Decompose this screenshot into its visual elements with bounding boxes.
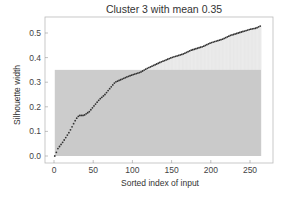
- data-point: [88, 111, 90, 113]
- data-point: [175, 55, 177, 57]
- chart-title: Cluster 3 with mean 0.35: [106, 3, 222, 15]
- data-point: [115, 81, 117, 83]
- data-point: [98, 99, 100, 101]
- data-point: [68, 132, 70, 134]
- data-point: [208, 43, 210, 45]
- x-tick-label: 200: [204, 165, 218, 175]
- data-point: [113, 82, 115, 84]
- data-point: [66, 134, 68, 136]
- data-point: [74, 120, 76, 122]
- data-point: [123, 77, 125, 79]
- data-point: [137, 72, 139, 74]
- data-point: [178, 54, 180, 56]
- y-tick-label: 0.1: [29, 126, 41, 136]
- data-point: [150, 66, 152, 68]
- data-point: [117, 80, 119, 82]
- data-point: [154, 64, 156, 66]
- data-point: [92, 107, 94, 109]
- data-point: [146, 67, 148, 69]
- data-point: [82, 115, 84, 117]
- data-point: [157, 62, 159, 64]
- x-tick-label: 250: [243, 165, 257, 175]
- data-point: [204, 45, 206, 47]
- x-axis-label: Sorted index of input: [121, 178, 200, 188]
- data-point: [251, 28, 253, 30]
- data-point: [140, 71, 142, 73]
- data-point: [240, 31, 242, 33]
- data-point: [244, 30, 246, 32]
- data-point: [236, 33, 238, 35]
- data-point: [128, 75, 130, 77]
- data-point: [126, 76, 128, 78]
- data-point: [101, 96, 103, 98]
- data-point: [77, 115, 79, 117]
- data-point: [193, 48, 195, 50]
- data-point: [225, 37, 227, 39]
- x-tick-label: 150: [165, 165, 179, 175]
- data-point: [85, 113, 87, 115]
- data-point: [79, 115, 81, 117]
- data-point: [190, 49, 192, 51]
- data-point: [237, 32, 239, 34]
- data-point: [131, 74, 133, 76]
- data-point: [107, 90, 109, 92]
- data-point: [198, 47, 200, 49]
- data-point: [233, 34, 235, 36]
- data-point: [151, 65, 153, 67]
- data-point: [250, 28, 252, 30]
- y-tick-label: 0.2: [29, 102, 41, 112]
- data-point: [231, 34, 233, 36]
- data-point: [259, 25, 261, 27]
- data-point: [184, 52, 186, 54]
- data-point: [220, 39, 222, 41]
- data-point: [242, 31, 244, 33]
- data-point: [168, 58, 170, 60]
- data-point: [171, 56, 173, 58]
- data-point: [102, 95, 104, 97]
- data-point: [54, 155, 56, 157]
- data-point: [132, 74, 134, 76]
- data-point: [215, 40, 217, 42]
- x-axis-ticks: 050100150200250: [52, 160, 258, 175]
- data-point: [120, 79, 122, 81]
- data-point: [96, 101, 98, 103]
- plot-area: [54, 25, 261, 157]
- data-point: [104, 94, 106, 96]
- data-point: [164, 60, 166, 62]
- y-tick-label: 0.0: [29, 151, 41, 161]
- data-point: [60, 144, 62, 146]
- data-point: [134, 73, 136, 75]
- data-point: [161, 61, 163, 63]
- data-point: [59, 146, 61, 148]
- data-point: [173, 56, 175, 58]
- data-point: [90, 109, 92, 111]
- data-point: [63, 139, 65, 141]
- data-point: [195, 48, 197, 50]
- data-point: [182, 53, 184, 55]
- data-point: [245, 30, 247, 32]
- data-point: [93, 105, 95, 107]
- data-point: [76, 117, 78, 119]
- data-point: [165, 59, 167, 61]
- data-point: [145, 68, 147, 70]
- data-point: [201, 46, 203, 48]
- data-point: [258, 26, 260, 28]
- data-point: [170, 57, 172, 59]
- data-point: [186, 52, 188, 54]
- data-point: [159, 62, 161, 64]
- data-point: [87, 112, 89, 114]
- data-point: [187, 51, 189, 53]
- data-point: [189, 50, 191, 52]
- data-point: [217, 40, 219, 42]
- data-point: [230, 35, 232, 37]
- x-tick-label: 0: [52, 165, 57, 175]
- data-point: [153, 65, 155, 67]
- data-point: [143, 69, 145, 71]
- data-point: [95, 103, 97, 105]
- data-point: [181, 54, 183, 56]
- data-point: [110, 86, 112, 88]
- y-tick-label: 0.4: [29, 53, 41, 63]
- data-point: [247, 29, 249, 31]
- data-point: [84, 114, 86, 116]
- data-point: [206, 44, 208, 46]
